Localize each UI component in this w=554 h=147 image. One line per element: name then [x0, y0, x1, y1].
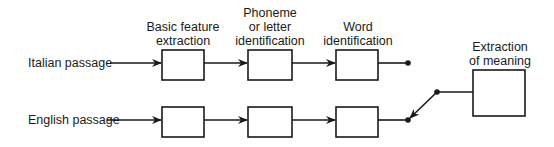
english-passage-label: English passage: [28, 113, 120, 127]
italian-feature-box: [162, 50, 204, 80]
basic-feature-label: Basic feature extraction: [143, 20, 223, 48]
english-terminal-dot: [405, 117, 411, 123]
meaning-label: Extraction of meaning: [460, 40, 540, 68]
italian-phoneme-box: [248, 50, 292, 80]
meaning-box: [473, 70, 525, 116]
english-phoneme-box: [248, 107, 292, 137]
phoneme-label: Phoneme or letter identification: [225, 6, 315, 48]
switch-pivot-dot: [434, 89, 440, 95]
english-word-box: [336, 107, 378, 137]
italian-passage-label: Italian passage: [28, 56, 112, 70]
english-feature-box: [162, 107, 204, 137]
italian-terminal-dot: [405, 60, 411, 66]
switch-arm: [410, 92, 437, 118]
italian-word-box: [336, 50, 378, 80]
word-label: Word identification: [318, 20, 398, 48]
